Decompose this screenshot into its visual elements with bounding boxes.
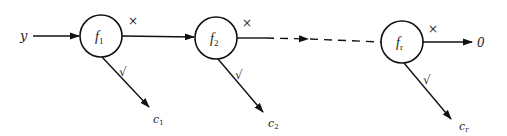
node-fr: fr bbox=[381, 21, 423, 63]
accept-arrow bbox=[404, 63, 451, 119]
dashed-line bbox=[310, 39, 381, 42]
dashed-arrow bbox=[266, 38, 308, 39]
output-label-c2: c2 bbox=[268, 117, 279, 131]
output-zero-label: 0 bbox=[477, 36, 485, 50]
accept-mark: √ bbox=[423, 73, 431, 87]
node-subscript: 2 bbox=[214, 38, 219, 48]
input-label: y bbox=[19, 28, 28, 43]
node-f1: f1 bbox=[80, 15, 122, 57]
svg-text:f1: f1 bbox=[95, 29, 103, 46]
reject-mark: × bbox=[428, 22, 438, 36]
node-subscript: 1 bbox=[99, 36, 104, 46]
node-f2: f2 bbox=[195, 17, 237, 59]
reject-mark: × bbox=[128, 14, 138, 28]
reject-arrow bbox=[122, 36, 194, 37]
node-subscript: r bbox=[400, 42, 403, 52]
output-label-c1: c1 bbox=[153, 113, 164, 127]
cascade-diagram: y f1 × √ c1 f2 × √ c2 fr × 0 √ cr bbox=[0, 0, 507, 136]
svg-text:f2: f2 bbox=[210, 31, 218, 48]
reject-mark: × bbox=[242, 16, 252, 30]
svg-text:fr: fr bbox=[396, 35, 403, 52]
accept-arrow bbox=[218, 59, 263, 112]
output-label-cr: cr bbox=[459, 120, 469, 134]
